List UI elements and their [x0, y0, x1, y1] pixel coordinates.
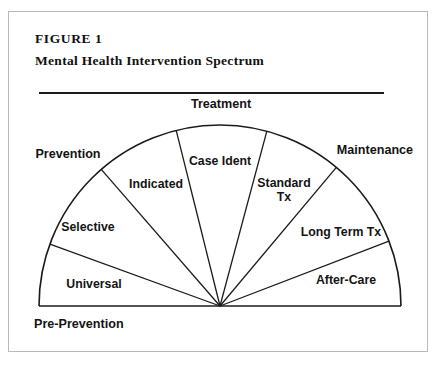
intervention-spectrum-diagram: UniversalSelectiveIndicatedCase IdentSta…: [9, 12, 429, 353]
segment-label-selective: Selective: [61, 220, 114, 234]
outer-label-pre_prevention: Pre-Prevention: [34, 317, 124, 331]
segment-label-after_care: After-Care: [316, 273, 376, 287]
segment-label-standard_tx: StandardTx: [257, 176, 310, 204]
segment-label-universal: Universal: [66, 277, 121, 291]
segment-label-case_ident: Case Ident: [189, 154, 251, 168]
figure-card: FIGURE 1 Mental Health Intervention Spec…: [8, 11, 428, 352]
outer-label-prevention: Prevention: [35, 147, 100, 161]
segment-divider-selective: [50, 244, 220, 306]
segment-label-long_term_tx: Long Term Tx: [301, 225, 382, 239]
fan-labels: UniversalSelectiveIndicatedCase IdentSta…: [34, 97, 413, 331]
outer-label-maintenance: Maintenance: [337, 143, 413, 157]
outer-label-treatment: Treatment: [191, 97, 252, 111]
segment-label-indicated: Indicated: [129, 177, 183, 191]
